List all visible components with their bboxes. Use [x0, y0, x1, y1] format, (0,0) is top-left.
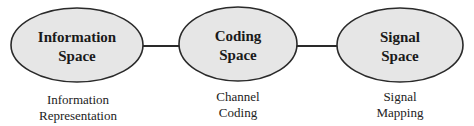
caption-line2: Coding — [219, 105, 258, 120]
node-title-line1: Information — [38, 29, 117, 45]
node-title-line2: Space — [58, 48, 96, 64]
caption-line2: Mapping — [377, 105, 424, 120]
node-ellipse — [179, 7, 297, 81]
node-title-line2: Space — [219, 47, 257, 63]
caption-line1: Information — [47, 92, 110, 107]
caption-line1: Channel — [216, 89, 260, 104]
node-title-line1: Coding — [215, 28, 262, 44]
node-title-line2: Space — [381, 48, 419, 64]
node-ellipse — [337, 8, 463, 82]
node-information-space: Information Space — [11, 8, 143, 82]
caption-line2: Representation — [39, 108, 117, 123]
node-title-line1: Signal — [380, 29, 420, 45]
caption-line1: Signal — [383, 89, 417, 104]
node-signal-space: Signal Space — [337, 8, 463, 82]
node-coding-space: Coding Space — [179, 7, 297, 81]
diagram-canvas: Information Space Information Representa… — [0, 0, 474, 126]
node-ellipse — [11, 8, 143, 82]
